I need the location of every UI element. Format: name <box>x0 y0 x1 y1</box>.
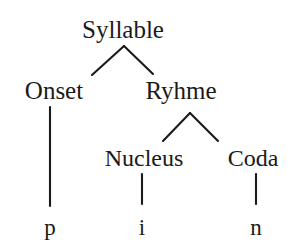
edge-ryhme-to-nucleus <box>163 113 190 141</box>
node-coda: Coda <box>228 146 279 170</box>
node-nucleus: Nucleus <box>105 146 184 170</box>
terminal-node-n: n <box>250 216 262 239</box>
edge-syllable-to-onset <box>92 46 124 75</box>
edge-ryhme-to-coda <box>190 113 218 141</box>
syllable-tree-diagram: Syllable Onset Ryhme Nucleus Coda p i n <box>0 0 297 245</box>
edge-syllable-to-ryhme <box>124 46 153 74</box>
node-onset: Onset <box>25 78 83 103</box>
terminal-node-i: i <box>139 216 145 239</box>
terminal-node-p: p <box>44 216 56 239</box>
node-ryhme: Ryhme <box>145 78 216 103</box>
node-syllable: Syllable <box>82 17 164 42</box>
